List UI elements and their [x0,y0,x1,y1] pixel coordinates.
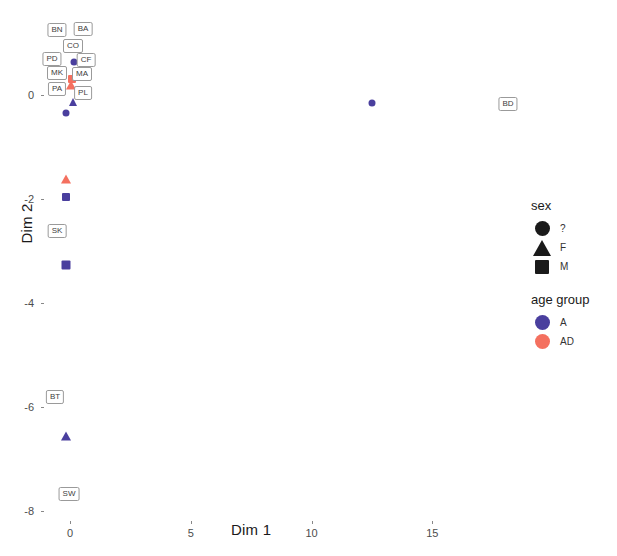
y-axis-title: Dim 2 [18,195,35,253]
y-tick-label: -6 [0,401,40,413]
point-label: PA [48,82,66,96]
legend-item-sex-m[interactable]: M [531,257,617,276]
y-tick-label: -4 [0,297,40,309]
circle-icon [531,313,553,332]
y-tick-label: 0 [0,89,40,101]
x-tick-mark [191,521,192,524]
y-tick: 0 [0,95,44,107]
x-tick-mark [70,521,71,524]
legend-label: F [560,242,566,253]
circle-icon [531,219,553,238]
point-label: PD [42,52,61,66]
x-axis-title: Dim 1 [231,521,271,538]
y-tick-mark [41,407,44,408]
data-point-square [62,193,70,201]
legend-item-sex-f[interactable]: F [531,238,617,257]
legend-group-sex: sex ?FM [531,198,617,276]
data-point-triangle [61,432,71,441]
legend-label: A [560,317,567,328]
legend-age-entries: AAD [531,313,617,351]
point-label: PL [74,86,92,100]
x-tick-mark [432,521,433,524]
point-label: CO [63,39,83,53]
y-tick-mark [41,95,44,96]
scatter-plot: BNBACOPDCFMKMAPAPLBDSKBTSW 051015 0-2-4-… [0,0,617,556]
x-tick-label: 10 [305,527,317,539]
point-label: BN [47,23,66,37]
y-tick-mark [41,511,44,512]
legend-title-age-group: age group [531,292,617,307]
data-point-circle [63,110,70,117]
y-tick-mark [41,199,44,200]
x-tick-mark [312,521,313,524]
point-label: MK [47,66,67,80]
point-label: BT [46,390,64,404]
legend-label: ? [560,223,566,234]
y-tick: -8 [0,511,44,523]
legend-item-sex-unknown[interactable]: ? [531,219,617,238]
legend-group-age: age group AAD [531,292,617,351]
square-icon [531,257,553,276]
circle-icon [531,332,553,351]
point-label: BD [498,97,517,111]
point-label: MA [72,67,92,81]
y-tick: -6 [0,407,44,419]
point-label: SK [48,224,67,238]
legend-item-age-a[interactable]: A [531,313,617,332]
legend-item-age-ad[interactable]: AD [531,332,617,351]
triangle-icon [531,238,553,257]
x-tick-label: 15 [426,527,438,539]
legend-label: AD [560,336,574,347]
y-tick-mark [41,303,44,304]
data-point-square [62,261,71,270]
point-label: BA [74,22,93,36]
data-point-circle [369,100,376,107]
y-tick-label: -8 [0,505,40,517]
x-tick-label: 0 [67,527,73,539]
legend-title-sex: sex [531,198,617,213]
legend-sex-entries: ?FM [531,219,617,276]
legend-label: M [560,261,568,272]
data-point-triangle [61,175,71,184]
y-tick: -4 [0,303,44,315]
point-label: CF [77,53,96,67]
point-label: SW [59,487,80,501]
legend: sex ?FM age group AAD [531,198,617,367]
x-tick-label: 5 [188,527,194,539]
